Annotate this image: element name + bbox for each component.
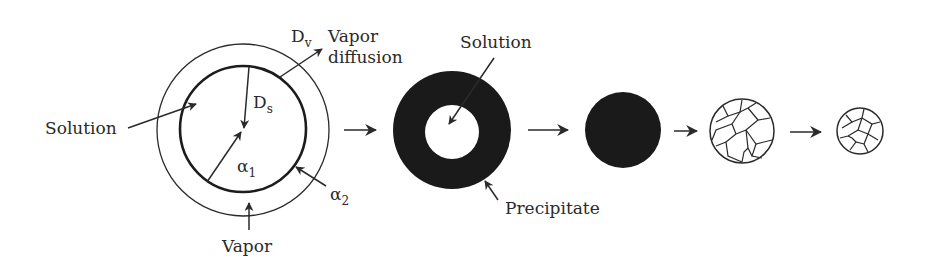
- label-alpha2: α2: [330, 184, 349, 208]
- vapor-shell-circle: [157, 44, 329, 216]
- precipitate-pointer-arrow: [485, 181, 498, 200]
- label-vapor-diffusion-1: Vapor: [327, 26, 379, 46]
- ds-arrow: [244, 67, 249, 128]
- droplet-evolution-diagram: Dv Vapor diffusion Ds Solution α1 α2 Vap…: [0, 0, 931, 267]
- label-vapor-diffusion-2: diffusion: [328, 47, 403, 67]
- stage2-precipitate-shell: Solution Precipitate: [393, 32, 600, 218]
- stage3-solid-particle: [585, 92, 661, 168]
- label-dv: Dv: [291, 26, 312, 50]
- stage5-shrunk-grain-particle: [837, 108, 883, 154]
- solution-pointer-arrow: [128, 104, 196, 128]
- vapor-diffusion-arrow: [280, 49, 322, 77]
- label-vapor: Vapor: [221, 236, 273, 256]
- alpha1-radius-arrow: [207, 132, 241, 182]
- label-ds: Ds: [253, 92, 273, 116]
- stage4-grain-particle: [710, 99, 774, 163]
- solution-core: [425, 105, 479, 159]
- label-precipitate: Precipitate: [505, 198, 600, 218]
- stage1-droplet: Dv Vapor diffusion Ds Solution α1 α2 Vap…: [45, 26, 403, 256]
- label-stage2-solution: Solution: [460, 32, 532, 52]
- label-solution: Solution: [45, 118, 117, 138]
- label-alpha1: α1: [237, 156, 256, 180]
